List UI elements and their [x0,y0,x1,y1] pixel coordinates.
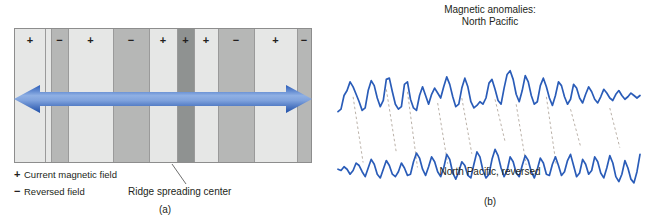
correlation-line [546,97,556,166]
stripe-polarity-symbol: + [15,35,45,45]
anomaly-trace-plot [330,0,650,224]
stripe-polarity-symbol: + [254,35,297,45]
panel-a-label: (a) [0,204,330,215]
stripe-polarity-symbol: + [68,35,113,45]
legend-current-field: +Current magnetic field [14,168,117,180]
legend-minus-symbol: − [14,185,24,197]
correlation-line [495,99,505,141]
legend-minus-text: Reversed field [24,186,85,197]
panel-b-label: (b) [330,196,650,207]
panel-b-anomaly-profiles: Magnetic anomalies: North Pacific North … [330,0,650,224]
stripe-polarity-symbol: + [149,35,177,45]
correlation-line [610,108,620,148]
ridge-spreading-center-caption: Ridge spreading center [128,186,231,197]
correlation-line [571,109,581,146]
stripe-polarity-symbol: − [51,35,68,45]
stripe-polarity-symbol: − [218,35,254,45]
spreading-direction-arrow [14,82,312,116]
legend-reversed-field: −Reversed field [14,185,85,197]
stripe-polarity-symbol: + [177,35,194,45]
correlation-line [462,98,472,154]
stripe-polarity-symbol: + [194,35,218,45]
correlation-lines-group [353,89,620,167]
legend-plus-text: Current magnetic field [24,169,117,180]
legend-plus-symbol: + [14,168,24,180]
stripe-polarity-symbol: − [113,35,149,45]
trace-north-pacific [338,71,640,112]
panel-a-seafloor-stripes: +−+−+++−+−+ +Current magnetic field −Rev… [0,0,330,224]
panel-b-sublabel: North Pacific, reversed [330,166,650,177]
stripe-polarity-symbol: + [311,35,312,45]
stripe-polarity-symbol: − [297,35,311,45]
magnetic-anomalies-figure: +−+−+++−+−+ +Current magnetic field −Rev… [0,0,650,224]
